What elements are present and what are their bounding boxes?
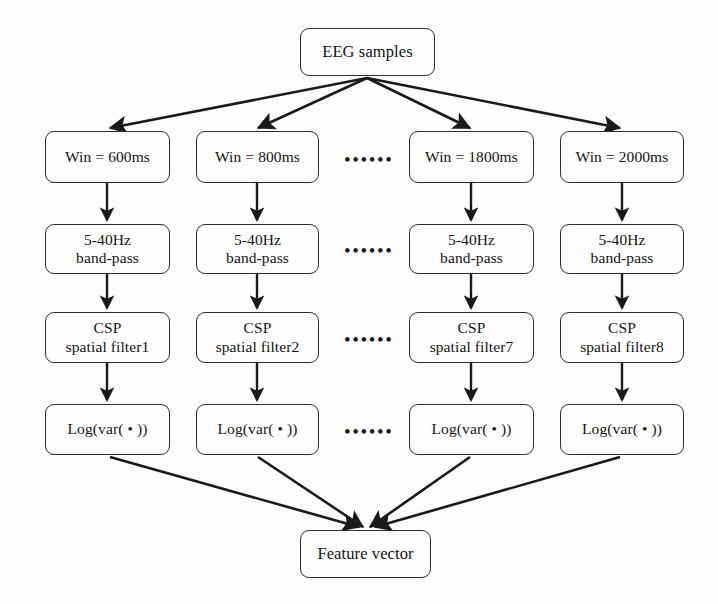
- node-feature-vector[interactable]: Feature vector: [300, 530, 431, 578]
- node-bandpass-8[interactable]: 5-40Hz band-pass: [560, 224, 684, 274]
- node-label-line1: 5-40Hz: [234, 231, 281, 249]
- node-label-line1: CSP: [244, 319, 272, 337]
- node-label-line1: CSP: [458, 319, 486, 337]
- node-label-line1: Win = 600ms: [65, 148, 150, 166]
- node-logvar-7[interactable]: Log(var( • )): [409, 404, 534, 455]
- node-label-line2: band-pass: [76, 249, 139, 267]
- node-label-line1: 5-40Hz: [598, 231, 645, 249]
- ellipsis-row-logvar: ••••••: [344, 422, 394, 441]
- fanin-edges: [110, 457, 620, 527]
- node-bandpass-1[interactable]: 5-40Hz band-pass: [45, 224, 170, 274]
- node-label-line1: CSP: [94, 319, 122, 337]
- node-label-line2: spatial filter7: [430, 338, 514, 356]
- node-label-line2: spatial filter1: [66, 338, 150, 356]
- node-csp-filter-1[interactable]: CSP spatial filter1: [45, 312, 170, 363]
- node-csp-filter-7[interactable]: CSP spatial filter7: [409, 312, 534, 363]
- column-chain-edges: [107, 183, 622, 400]
- node-label-line1: Log(var( • )): [432, 420, 512, 438]
- node-window-800ms[interactable]: Win = 800ms: [196, 131, 319, 183]
- node-bandpass-7[interactable]: 5-40Hz band-pass: [409, 224, 534, 274]
- node-eeg-samples[interactable]: EEG samples: [300, 28, 435, 76]
- node-label-line1: 5-40Hz: [448, 231, 495, 249]
- node-window-2000ms[interactable]: Win = 2000ms: [560, 131, 684, 183]
- node-csp-filter-2[interactable]: CSP spatial filter2: [196, 312, 319, 363]
- node-label-line2: band-pass: [226, 249, 289, 267]
- node-window-1800ms[interactable]: Win = 1800ms: [409, 131, 534, 183]
- node-label-line1: Log(var( • )): [68, 420, 148, 438]
- node-bandpass-2[interactable]: 5-40Hz band-pass: [196, 224, 319, 274]
- node-eeg-samples-label: EEG samples: [322, 42, 412, 61]
- node-label-line1: CSP: [608, 319, 636, 337]
- edge-layer: [0, 0, 718, 604]
- flowchart-canvas: EEG samples Win = 600ms Win = 800ms Win …: [0, 0, 718, 604]
- node-label-line1: Log(var( • )): [582, 420, 662, 438]
- node-label-line1: Log(var( • )): [218, 420, 298, 438]
- node-logvar-1[interactable]: Log(var( • )): [45, 404, 170, 455]
- node-feature-vector-label: Feature vector: [317, 544, 413, 563]
- node-label-line1: Win = 1800ms: [425, 148, 518, 166]
- ellipsis-row-windowing: ••••••: [344, 150, 394, 169]
- node-label-line1: 5-40Hz: [84, 231, 131, 249]
- node-label-line2: spatial filter8: [580, 338, 664, 356]
- node-logvar-2[interactable]: Log(var( • )): [196, 404, 319, 455]
- node-logvar-8[interactable]: Log(var( • )): [560, 404, 684, 455]
- node-label-line2: band-pass: [440, 249, 503, 267]
- node-csp-filter-8[interactable]: CSP spatial filter8: [560, 312, 684, 363]
- fanout-edges: [110, 78, 620, 128]
- node-label-line1: Win = 2000ms: [576, 148, 669, 166]
- node-window-600ms[interactable]: Win = 600ms: [45, 131, 170, 183]
- ellipsis-row-bandpass: ••••••: [344, 241, 394, 260]
- node-label-line2: spatial filter2: [216, 338, 300, 356]
- node-label-line2: band-pass: [591, 249, 654, 267]
- node-label-line1: Win = 800ms: [215, 148, 300, 166]
- ellipsis-row-csp: ••••••: [344, 330, 394, 349]
